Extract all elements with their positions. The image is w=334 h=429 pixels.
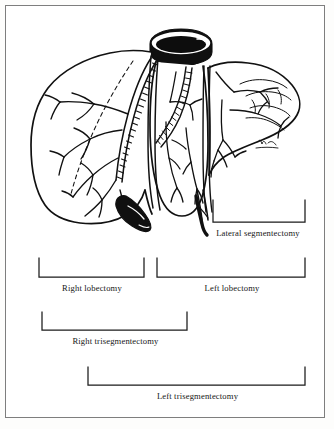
liver-illustration [31,29,300,235]
bracket-left-lobectomy [157,258,305,277]
label-left-trisegmentectomy: Left trisegmentectomy [89,391,306,401]
label-lateral-segmentectomy: Lateral segmentectomy [205,228,311,238]
bracket-left-trisegmentectomy [88,367,305,385]
label-left-lobectomy: Left lobectomy [158,283,306,293]
bracket-lateral-segmentectomy [213,200,305,222]
gallbladder [116,196,151,232]
bracket-right-trisegmentectomy [42,312,187,330]
label-right-trisegmentectomy: Right trisegmentectomy [43,336,188,346]
liver-diagram [0,0,334,429]
figure-page: Lateral segmentectomy Right lobectomy Le… [0,0,334,429]
inferior-vena-cava [150,29,212,66]
label-right-lobectomy: Right lobectomy [40,283,144,293]
bracket-right-lobectomy [39,258,144,277]
liver-outline [31,51,300,224]
